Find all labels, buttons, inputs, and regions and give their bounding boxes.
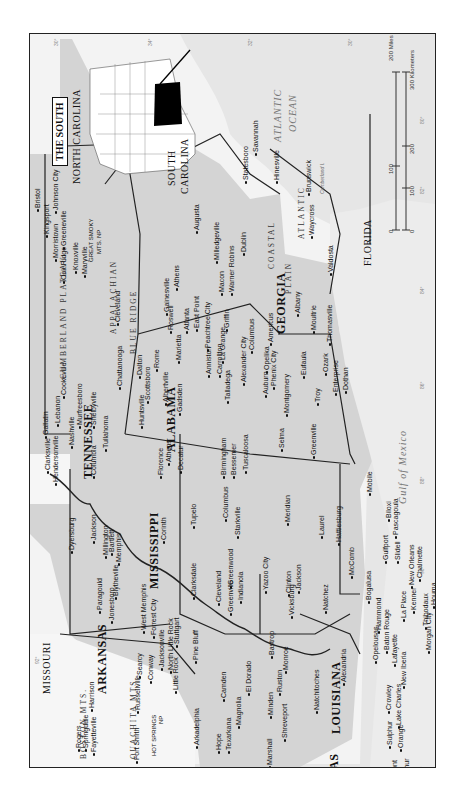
city-warner-robins: Warner Robins	[228, 246, 235, 296]
city-sulphur: Sulphur	[386, 721, 393, 749]
city-cookeville: Cookeville	[60, 363, 67, 399]
city-tuscaloosa: Tuscaloosa	[242, 434, 249, 474]
region-label-coastal: COASTAL	[268, 221, 276, 269]
city-statesboro: Statesboro	[242, 146, 249, 184]
city-west-memphis: West Memphis	[140, 584, 147, 634]
city-americus: Americus	[267, 313, 274, 346]
city-starkville: Starkville	[234, 507, 241, 539]
scale-km-0: 0	[409, 230, 415, 233]
city-tullahoma: Tullahoma	[102, 416, 109, 452]
city-fort-smith: Fort Smith	[133, 728, 140, 764]
city-yazoo-city: Yazoo City	[262, 557, 269, 594]
city-florence: Florence	[157, 448, 164, 479]
city-eufaula: Eufaula	[300, 351, 307, 379]
city-albany: Albany	[294, 292, 301, 317]
city-memphis: Memphis	[115, 534, 122, 566]
scale-km-200: 200	[409, 144, 415, 154]
city-chalmette: Chalmette	[416, 546, 423, 582]
city-shreveport: Shreveport	[281, 704, 288, 742]
city-arkadelphia: Arkadelphia	[193, 708, 200, 749]
city-bristol: Bristol	[34, 189, 41, 212]
scale-miles-0: 0	[388, 230, 394, 233]
tick-label: 30°	[348, 38, 353, 46]
city-auburn: Auburn	[262, 371, 269, 398]
city-cleveland-ms: Cleveland	[215, 571, 222, 606]
city-lebanon: Lebanon	[54, 396, 61, 427]
city-dalton: Dalton	[136, 355, 143, 379]
region-label-hot-springs-np: NP	[158, 716, 164, 724]
region-label-great-smoky: GREAT SMOKY	[88, 219, 94, 262]
city-marshall: Marshall	[266, 739, 273, 768]
water-label-ocean: OCEAN	[288, 94, 298, 132]
city-peachtree-city: Peachtree City	[204, 302, 211, 352]
city-greenville-ms: Greenville	[227, 580, 234, 616]
city-pascagoula: Pascagoula	[392, 498, 399, 539]
city-natchez: Natchez	[322, 584, 329, 614]
tick-label: 34°	[148, 38, 153, 46]
state-label-south-carolina-2: CAROLINA	[180, 138, 190, 194]
region-label-hot-springs: HOT SPRINGS	[151, 715, 157, 756]
scale-miles-100: 100	[388, 164, 394, 174]
city-east-point: East Point	[193, 296, 200, 332]
city-columbia: Columbia	[90, 445, 97, 479]
tick-label: 84°	[420, 286, 425, 294]
city-greenville: Greenville	[310, 423, 317, 459]
city-clarksville: Clarksville	[44, 438, 51, 474]
state-label-florida: FLORIDA	[363, 219, 373, 266]
city-harrison: Harrison	[88, 682, 95, 712]
city-meridian: Meridian	[284, 495, 291, 526]
inset-title: THE SOUTH	[52, 97, 68, 166]
city-bessemer: Bessemer	[230, 443, 237, 479]
city-knoxville: Knoxville	[72, 242, 79, 274]
city-hendersonville: Hendersonville	[52, 436, 59, 486]
island-label-cumberland: Cumberland I.	[320, 163, 325, 194]
city-chattanooga: Chattanooga	[116, 346, 123, 390]
city-new-orleans: New Orleans	[408, 545, 415, 589]
city-opelika: Opelika	[263, 346, 270, 374]
city-clarksdale: Clarksdale	[190, 563, 197, 600]
city-beaumont: Beaumont	[391, 760, 398, 768]
region-label-plain: PLAIN	[285, 262, 293, 294]
city-mccomb: McComb	[348, 547, 355, 579]
city-decatur: Decatur	[177, 445, 184, 474]
city-ozark: Ozark	[322, 353, 329, 376]
scale-label-miles: 200 Miles	[388, 35, 394, 61]
city-crowley: Crowley	[385, 685, 392, 714]
city-valdosta: Valdosta	[327, 245, 334, 276]
city-hattiesburg: Hattiesburg	[335, 506, 342, 546]
city-athens: Athens	[173, 265, 180, 291]
city-shelbyville: Shelbyville	[90, 392, 97, 429]
state-label-mississippi: MISSISSIPPI	[148, 512, 160, 589]
city-vicksburg: Vicksburg	[288, 584, 295, 619]
city-columbus-ms: Columbus	[222, 486, 229, 522]
city-atlanta: Atlanta	[183, 308, 190, 334]
city-brunswick: Brunswick	[305, 160, 312, 196]
city-lafayette: Lafayette	[391, 634, 398, 667]
tick-label: 82°	[420, 186, 425, 194]
city-albertville: Albertville	[162, 372, 169, 406]
map-frame: THE SOUTH NORTH CAROLINA SOUTH CAROLINA …	[29, 33, 436, 768]
tick-label: 80°	[420, 116, 425, 124]
city-dothan: Dothan	[342, 367, 349, 394]
city-biloxi: Biloxi	[385, 501, 392, 522]
city-athens-al: Athens	[165, 440, 172, 466]
city-montgomery: Montgomery	[283, 374, 290, 417]
city-minden: Minden	[267, 692, 274, 719]
city-alexandria: Alexandria	[340, 649, 347, 686]
city-mobile: Mobile	[366, 471, 373, 496]
city-russellville: Russellville	[134, 675, 141, 714]
city-magnolia: Magnolia	[235, 697, 242, 729]
city-carrollton: Carrollton	[216, 344, 223, 378]
city-bartlett: Bartlett	[108, 530, 115, 556]
city-macon: Macon	[218, 271, 225, 296]
city-gulfport: Gulfport	[382, 535, 389, 564]
city-kingsport: Kingsport	[43, 204, 50, 238]
city-columbus-ga: Columbus	[248, 318, 255, 354]
city-alexander-city: Alexander City	[240, 336, 247, 386]
region-label-great-smoky-np: MTS. NP	[96, 230, 102, 254]
city-laurel: Laurel	[318, 516, 325, 539]
city-slidell: Slidell	[394, 541, 401, 564]
scale-label-km: 300 Kilometers	[409, 50, 415, 90]
tick-label: 92°	[35, 656, 40, 664]
city-paragould: Paragould	[96, 578, 103, 614]
